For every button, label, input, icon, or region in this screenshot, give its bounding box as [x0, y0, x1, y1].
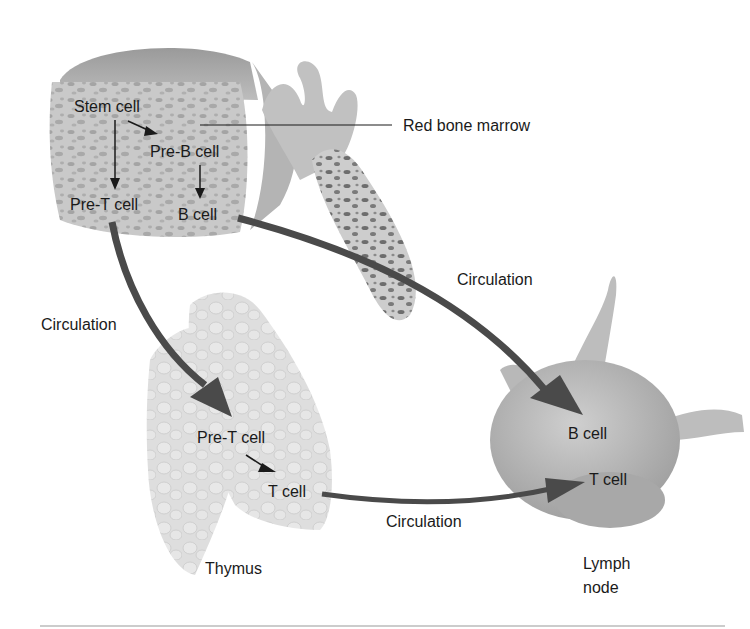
label-pre-b-cell: Pre-B cell — [150, 143, 219, 161]
lymph-node-illustration — [490, 276, 744, 528]
label-t-cell-lymph-node: T cell — [589, 471, 627, 489]
label-b-cell-lymph-node: B cell — [568, 425, 607, 443]
label-circulation-upper-right: Circulation — [457, 271, 533, 289]
label-thymus: Thymus — [205, 560, 262, 578]
bone-marrow-illustration — [50, 48, 416, 320]
diagram-canvas — [0, 0, 750, 629]
label-t-cell-thymus: T cell — [268, 483, 306, 501]
label-pre-t-cell-marrow: Pre-T cell — [70, 196, 138, 214]
label-stem-cell: Stem cell — [74, 98, 140, 116]
label-node: node — [583, 579, 619, 597]
label-b-cell-marrow: B cell — [178, 206, 217, 224]
label-circulation-bottom: Circulation — [386, 513, 462, 531]
label-circulation-left: Circulation — [41, 316, 117, 334]
label-lymph: Lymph — [583, 555, 630, 573]
label-pre-t-cell-thymus: Pre-T cell — [197, 429, 265, 447]
label-red-bone-marrow: Red bone marrow — [403, 117, 530, 135]
